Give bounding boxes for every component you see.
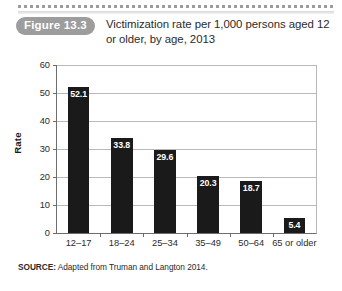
bar: 29.6 [154, 150, 176, 233]
bar-value-label: 52.1 [68, 89, 90, 99]
x-axis-tick-mark [230, 233, 231, 237]
bar-value-label: 20.3 [197, 178, 219, 188]
y-axis-tick-label: 0 [45, 228, 50, 238]
x-axis-tick-mark [273, 233, 274, 237]
y-axis-tick-label: 50 [40, 88, 50, 98]
x-axis-tick-label: 35–49 [195, 238, 221, 248]
source-label: SOURCE: [18, 262, 56, 272]
y-axis-tick-label: 10 [40, 200, 50, 210]
bar-group: 18.750–64 [230, 65, 273, 233]
bar-value-label: 33.8 [111, 140, 133, 150]
x-axis-tick-mark [143, 233, 144, 237]
x-axis-tick-label: 12–17 [66, 238, 92, 248]
bar-value-label: 5.4 [284, 220, 306, 230]
bar-group: 29.625–34 [143, 65, 186, 233]
bar-group: 5.465 or older [273, 65, 316, 233]
x-axis-tick-label: 18–24 [109, 238, 135, 248]
y-axis-label: Rate [12, 132, 23, 154]
bar: 33.8 [111, 138, 133, 233]
x-axis-tick-mark [100, 233, 101, 237]
bar: 20.3 [197, 176, 219, 233]
source-note: SOURCE: Adapted from Truman and Langton … [18, 262, 208, 272]
bar: 18.7 [240, 181, 262, 233]
plot-area: 010203040506052.112–1733.818–2429.625–34… [56, 65, 317, 234]
y-axis-tick-mark [53, 233, 57, 234]
top-gradient-rule [18, 11, 334, 14]
bar-group: 33.818–24 [100, 65, 143, 233]
y-axis-tick-label: 60 [40, 60, 50, 70]
x-axis-tick-mark [187, 233, 188, 237]
top-dotted-rule [18, 5, 334, 8]
x-axis-tick-label: 50–64 [238, 238, 264, 248]
x-axis-tick-label: 65 or older [272, 238, 316, 248]
figure-title: Victimization rate per 1,000 persons age… [106, 17, 334, 46]
bar: 5.4 [284, 218, 306, 233]
figure-number-badge: Figure 13.3 [16, 17, 95, 35]
y-axis-tick-label: 30 [40, 144, 50, 154]
bar-group: 20.335–49 [187, 65, 230, 233]
source-text: Adapted from Truman and Langton 2014. [58, 262, 208, 272]
x-axis-tick-label: 25–34 [152, 238, 178, 248]
bar-chart: Rate 010203040506052.112–1733.818–2429.6… [0, 55, 342, 255]
bar: 52.1 [68, 87, 90, 233]
figure-header: Figure 13.3 Victimization rate per 1,000… [16, 17, 334, 46]
y-axis-tick-label: 20 [40, 172, 50, 182]
y-axis-tick-label: 40 [40, 116, 50, 126]
bar-value-label: 18.7 [240, 183, 262, 193]
bar-value-label: 29.6 [154, 152, 176, 162]
bar-group: 52.112–17 [57, 65, 100, 233]
